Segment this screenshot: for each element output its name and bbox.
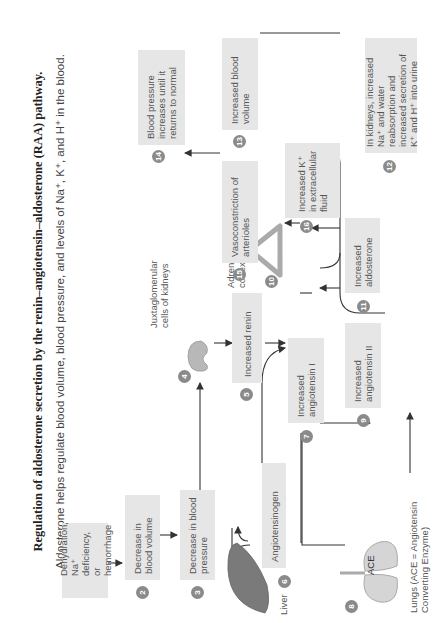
- step-1-box: Dehydration, Na⁺ deficiency, or hemorrha…: [62, 523, 108, 598]
- ace-label: ACE: [365, 555, 376, 575]
- kidney-icon: [185, 337, 213, 375]
- step-5-badge: 5: [240, 388, 253, 401]
- step-8-badge: 8: [345, 600, 358, 613]
- step-15-text: Vasoconstriction of arterioles: [229, 167, 251, 257]
- step-3-badge: 3: [191, 586, 204, 599]
- step-9-text: Increased angiotensin II: [352, 329, 374, 402]
- step-12-text: In kidneys, increased Na⁺ and water reab…: [364, 44, 419, 147]
- step-3-text: Decrease in blood pressure: [187, 496, 209, 574]
- step-9-box: Increased angiotensin II: [345, 323, 381, 408]
- step-14-badge: 14: [152, 150, 165, 163]
- liver-label: Liver: [278, 594, 289, 615]
- step-7-badge: 7: [300, 430, 313, 443]
- raa-pathway-diagram: Regulation of aldosterone secretion by t…: [0, 0, 444, 623]
- step-15-box: Vasoconstriction of arterioles: [222, 161, 258, 263]
- step-4-label: Juxtaglomerular cells of kidneys: [148, 258, 170, 328]
- step-15-badge: 15: [233, 268, 246, 281]
- step-2-box: Decrease in blood volume: [125, 495, 160, 580]
- step-2-badge: 2: [136, 586, 149, 599]
- step-14-text: Blood pressure increases until it return…: [145, 56, 178, 139]
- step-8-label: Lungs (ACE = Angiotensin Converting Enzy…: [408, 473, 430, 613]
- step-12-badge: 12: [383, 160, 396, 173]
- step-16-box: Increased K⁺ in extracellular fluid: [285, 143, 340, 218]
- step-10-badge: 10: [265, 275, 278, 288]
- step-6-badge: 6: [278, 575, 291, 588]
- step-3-box: Decrease in blood pressure: [180, 490, 215, 580]
- step-5-box: Increased renin: [232, 293, 262, 383]
- step-5-text: Increased renin: [242, 312, 253, 377]
- step-14-box: Blood pressure increases until it return…: [138, 50, 185, 145]
- step-11-box: Increased aldosterone: [345, 218, 380, 293]
- step-13-text: Increased blood volume: [229, 44, 251, 124]
- step-6-box: Angiotensinogen: [262, 463, 286, 568]
- step-11-text: Increased aldosterone: [352, 224, 374, 287]
- step-2-text: Decrease in blood volume: [132, 501, 154, 574]
- step-13-box: Increased blood volume: [222, 38, 258, 130]
- step-11-badge: 11: [357, 300, 370, 313]
- step-16-badge: 16: [300, 220, 313, 233]
- step-13-badge: 13: [233, 135, 246, 148]
- step-7-box: Increased angiotensin I: [288, 338, 324, 423]
- step-16-text: Increased K⁺ in extracellular fluid: [296, 149, 329, 212]
- step-1-text: Dehydration, Na⁺ deficiency, or hemorrha…: [58, 522, 113, 576]
- step-9-badge: 9: [357, 414, 370, 427]
- step-7-text: Increased angiotensin I: [295, 344, 317, 417]
- step-6-text: Angiotensinogen: [269, 491, 280, 562]
- step-12-box: In kidneys, increased Na⁺ and water reab…: [365, 38, 417, 153]
